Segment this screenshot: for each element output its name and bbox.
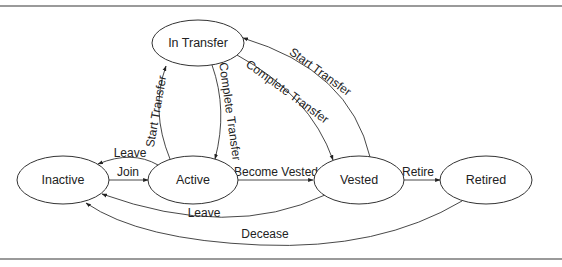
node-label-in-transfer: In Transfer <box>168 36 228 50</box>
node-label-inactive: Inactive <box>41 173 84 187</box>
edge-label-retire: Retire <box>402 165 434 179</box>
edge-label-leave-vested: Leave <box>188 206 221 220</box>
node-in-transfer: In Transfer <box>152 20 244 66</box>
node-active: Active <box>148 156 238 204</box>
node-retired: Retired <box>440 156 532 204</box>
edge-complete-transfer-in: Complete Transfer <box>212 62 244 162</box>
node-vested: Vested <box>314 156 404 204</box>
edge-decease: Decease <box>86 201 462 245</box>
node-inactive: Inactive <box>17 156 109 204</box>
node-label-retired: Retired <box>466 173 506 187</box>
edge-join: Join <box>109 165 148 180</box>
edge-label-become-vested: Become Vested <box>234 165 318 179</box>
edge-become-vested: Become Vested <box>234 165 318 180</box>
node-label-active: Active <box>176 173 210 187</box>
edge-start-transfer-active: Start Transfer <box>143 66 170 159</box>
edge-label-leave-active: Leave <box>114 146 147 160</box>
edge-label-complete-transfer-in: Complete Transfer <box>216 62 244 162</box>
node-label-vested: Vested <box>340 173 378 187</box>
edge-leave-active: Leave <box>98 146 158 165</box>
state-diagram: Join Leave Start Transfer Complete Trans… <box>0 0 562 267</box>
edge-retire: Retire <box>402 165 440 180</box>
edge-label-decease: Decease <box>241 227 289 241</box>
edge-label-start-transfer-active: Start Transfer <box>143 74 169 148</box>
edge-label-join: Join <box>117 165 139 179</box>
